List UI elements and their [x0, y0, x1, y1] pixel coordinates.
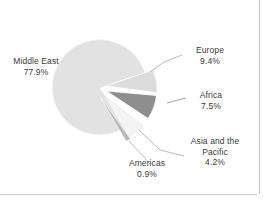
pie-chart-figure: Middle East 77.9% Europe 9.4% Africa 7.5…	[0, 0, 263, 201]
pie-label-europe-name: Europe	[196, 45, 224, 55]
pie-label-africa: Africa 7.5%	[186, 90, 236, 111]
pie-label-asia-and-the-pacific-value: 4.2%	[184, 157, 246, 168]
pie-label-europe: Europe 9.4%	[182, 45, 238, 66]
pie-label-asia-and-the-pacific: Asia and the Pacific 4.2%	[184, 136, 246, 168]
pie-label-americas: Americas 0.9%	[116, 158, 178, 179]
leader-line-asia-and-the-pacific	[139, 130, 184, 156]
pie-label-middle-east-value: 77.9%	[2, 67, 70, 78]
pie-label-americas-value: 0.9%	[116, 169, 178, 180]
pie-label-middle-east-name: Middle East	[13, 56, 59, 66]
pie-label-americas-name: Americas	[129, 158, 165, 168]
pie-label-middle-east: Middle East 77.9%	[2, 56, 70, 77]
pie-label-africa-name: Africa	[200, 90, 222, 100]
leader-line-africa	[167, 98, 186, 103]
pie-label-asia-and-the-pacific-name: Asia and the Pacific	[191, 136, 239, 157]
pie-label-europe-value: 9.4%	[182, 56, 238, 67]
leader-line-europe	[150, 55, 182, 72]
pie-label-africa-value: 7.5%	[186, 101, 236, 112]
